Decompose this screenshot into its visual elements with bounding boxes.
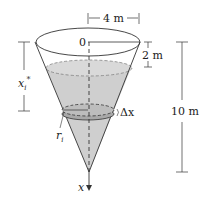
height-label: 10 m xyxy=(171,106,199,117)
empty-depth-label: 2 m xyxy=(142,50,163,61)
axis-label: x xyxy=(78,182,84,193)
slice-thickness-label: Δx xyxy=(120,107,134,118)
radius-label: ri xyxy=(56,130,64,144)
cone-diagram xyxy=(0,0,204,198)
top-radius-label: 4 m xyxy=(103,13,124,24)
origin-label: 0 xyxy=(79,37,86,48)
axis-arrow-icon xyxy=(86,185,92,191)
depth-label: xi* xyxy=(18,76,30,92)
